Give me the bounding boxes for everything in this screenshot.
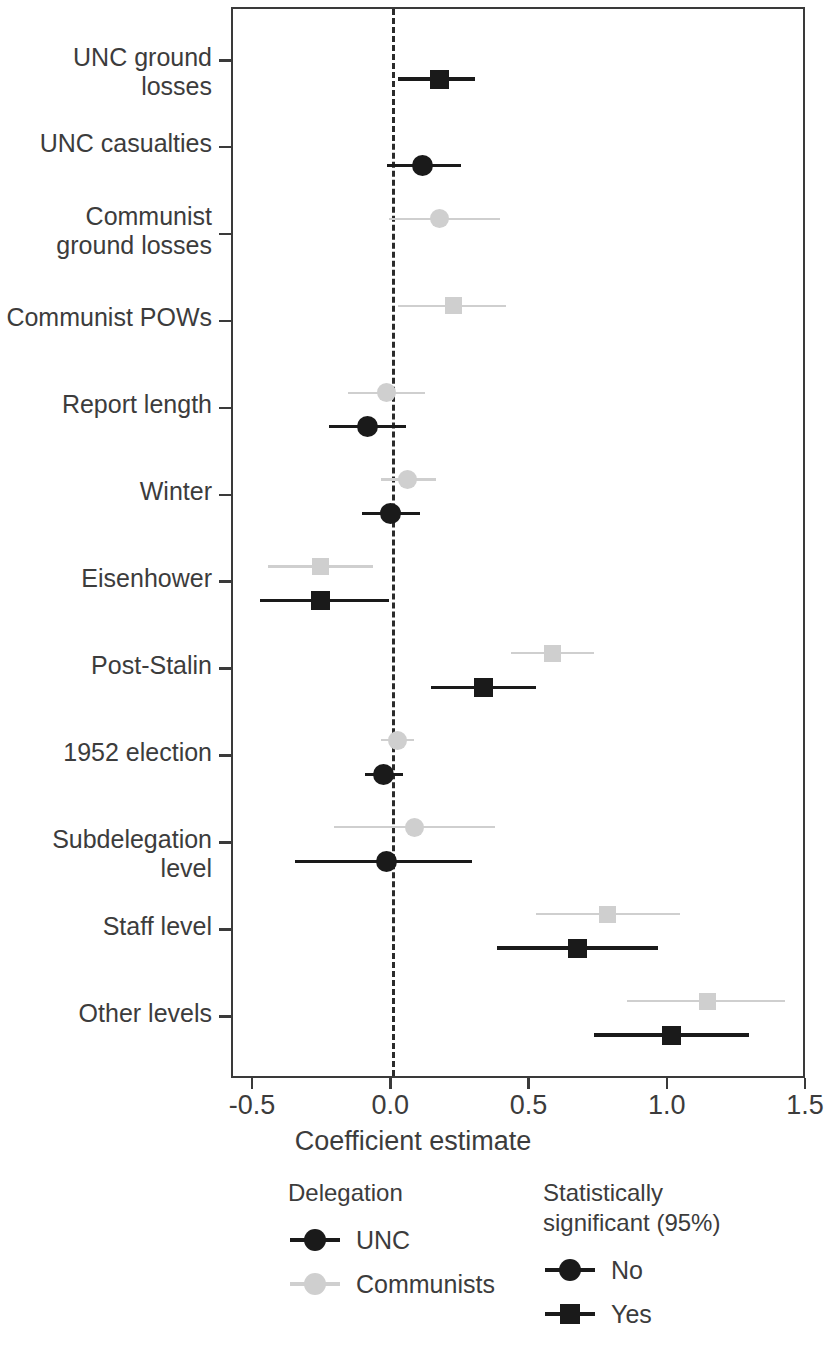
coefficient-plot-figure: UNC ground lossesUNC casualtiesCommunist… (0, 0, 826, 1349)
y-axis-tick (219, 1015, 231, 1018)
legend-key-circle-icon (288, 1269, 342, 1299)
legend-entry: No (543, 1248, 720, 1292)
estimate-marker-square (544, 645, 561, 662)
legend-entry-label: No (611, 1256, 643, 1284)
x-axis-title: Coefficient estimate (0, 1126, 826, 1157)
legend-entry: UNC (288, 1218, 495, 1262)
y-axis-tick (219, 841, 231, 844)
x-axis-tick-label: -0.5 (192, 1090, 312, 1121)
y-axis-tick (219, 754, 231, 757)
estimate-marker-square (662, 1026, 681, 1045)
legend-entry: Yes (543, 1292, 720, 1336)
y-axis-tick (219, 928, 231, 931)
estimate-marker-circle (380, 503, 401, 524)
estimate-marker-square (699, 993, 716, 1010)
legend-key-circle-icon (543, 1255, 597, 1285)
y-axis-label: Other levels (0, 999, 212, 1028)
legend-entry: Communists (288, 1262, 495, 1306)
estimate-marker-square (568, 939, 587, 958)
legend-significance-entries: NoYes (543, 1248, 720, 1336)
legend-delegation: Delegation UNCCommunists (288, 1178, 495, 1306)
y-axis-label: Winter (0, 477, 212, 506)
estimate-marker-square (430, 70, 449, 89)
estimate-marker-square (311, 591, 330, 610)
estimate-marker-circle (376, 851, 397, 872)
y-axis-tick (219, 233, 231, 236)
legend-delegation-entries: UNCCommunists (288, 1218, 495, 1306)
x-axis-tick-label: 0.0 (330, 1090, 450, 1121)
estimate-marker-circle (430, 209, 449, 228)
plot-panel (231, 7, 805, 1078)
y-axis-tick (219, 407, 231, 410)
estimate-marker-square (312, 558, 329, 575)
y-axis-tick (219, 580, 231, 583)
y-axis-label: Staff level (0, 912, 212, 941)
y-axis-label: UNC ground losses (0, 43, 212, 101)
estimate-marker-circle (388, 731, 407, 750)
legend-entry-label: Communists (356, 1270, 495, 1298)
legend-entry-label: UNC (356, 1226, 410, 1254)
y-axis-label: Report length (0, 390, 212, 419)
estimate-marker-square (445, 297, 462, 314)
y-axis-label: 1952 election (0, 738, 212, 767)
zero-reference-line (392, 9, 395, 1076)
y-axis-tick (219, 494, 231, 497)
y-axis-label: Subdelegation level (0, 825, 212, 883)
legend-delegation-title: Delegation (288, 1178, 495, 1208)
y-axis-tick (219, 320, 231, 323)
estimate-marker-circle (405, 818, 424, 837)
y-axis-label: Communist ground losses (0, 202, 212, 260)
x-axis-tick (389, 1078, 392, 1089)
x-axis-tick (804, 1078, 807, 1089)
x-axis-tick (527, 1078, 530, 1089)
y-axis-label: Eisenhower (0, 564, 212, 593)
estimate-marker-circle (357, 416, 378, 437)
y-axis-tick (219, 59, 231, 62)
legend-significance: Statistically significant (95%) NoYes (543, 1178, 720, 1336)
estimate-marker-circle (412, 155, 433, 176)
estimate-marker-square (599, 906, 616, 923)
y-axis-label: UNC casualties (0, 129, 212, 158)
x-axis-tick-label: 1.0 (607, 1090, 727, 1121)
y-axis-tick (219, 667, 231, 670)
x-axis-tick (251, 1078, 254, 1089)
estimate-marker-square (474, 678, 493, 697)
y-axis-tick (219, 146, 231, 149)
y-axis-label: Communist POWs (0, 303, 212, 332)
x-axis-tick-label: 1.5 (745, 1090, 826, 1121)
x-axis-tick-label: 0.5 (469, 1090, 589, 1121)
legend-key-circle-icon (288, 1225, 342, 1255)
legend-entry-label: Yes (611, 1300, 652, 1328)
legend-significance-title: Statistically significant (95%) (543, 1178, 720, 1238)
y-axis-label: Post-Stalin (0, 651, 212, 680)
legend-key-square-icon (543, 1299, 597, 1329)
estimate-marker-circle (398, 470, 417, 489)
x-axis-tick (666, 1078, 669, 1089)
